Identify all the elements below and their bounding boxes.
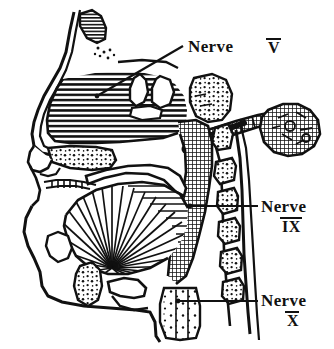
label-nerve-v-numeral: V xyxy=(268,39,280,56)
label-nerve-v-text: Nerve xyxy=(188,37,233,56)
label-nerve-x-text: Nerve xyxy=(261,291,306,310)
leader-dot-nerve-v xyxy=(95,94,100,99)
label-nerve-ix-text: Nerve xyxy=(261,197,306,216)
leader-dot-nerve-x xyxy=(176,299,181,304)
label-nerve-ix-numeral: IX xyxy=(282,218,301,235)
leader-dot-nerve-ix xyxy=(188,204,193,209)
anatomy-figure: Nerve V Nerve IX Nerve X xyxy=(0,0,334,349)
anatomy-diagram-svg: Nerve V Nerve IX Nerve X xyxy=(0,0,334,349)
label-nerve-x-numeral: X xyxy=(287,312,299,329)
